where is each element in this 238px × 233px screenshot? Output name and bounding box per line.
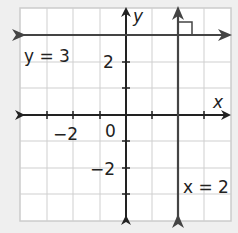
x-axis-label: x: [212, 92, 224, 112]
coordinate-graph: y x y = 3 x = 2 −2 0 2 −2: [0, 0, 238, 233]
tick-label-origin: 0: [105, 121, 116, 141]
label-y-equals-3: y = 3: [24, 46, 70, 66]
label-x-equals-2: x = 2: [183, 177, 229, 197]
tick-label-x-neg2: −2: [53, 124, 78, 144]
tick-label-y-2: 2: [103, 52, 114, 72]
y-axis-label: y: [132, 6, 144, 26]
tick-label-y-neg2: −2: [90, 159, 115, 179]
